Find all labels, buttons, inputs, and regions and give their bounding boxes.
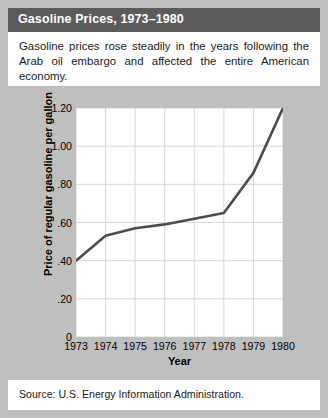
y-axis-tick: 1.00 — [38, 140, 72, 152]
x-axis-tick: 1980 — [263, 340, 303, 352]
source-text: Source: U.S. Energy Information Administ… — [19, 388, 244, 400]
chart-area: Price of regular gasoline per gallon 1.2… — [8, 86, 320, 374]
y-axis-tick-labels: 1.201.00.80.60.40.200 — [36, 108, 72, 337]
y-axis-tick: 1.20 — [38, 102, 72, 114]
description-text: Gasoline prices rose steadily in the yea… — [19, 39, 309, 85]
source-footer: Source: U.S. Energy Information Administ… — [8, 380, 320, 410]
y-axis-tick: .60 — [38, 217, 72, 229]
y-axis-tick: .80 — [38, 178, 72, 190]
plot-area — [76, 108, 283, 337]
y-axis-tick: .20 — [38, 293, 72, 305]
page-title: Gasoline Prices, 1973–1980 — [18, 12, 184, 26]
x-axis-tick-labels: 19731974197519761977197819791980 — [76, 340, 283, 354]
figure-panel: Gasoline Prices, 1973–1980 Gasoline pric… — [0, 0, 328, 418]
description-block: Gasoline prices rose steadily in the yea… — [8, 32, 320, 86]
x-axis-title: Year — [76, 355, 283, 367]
chart-title-bar: Gasoline Prices, 1973–1980 — [8, 8, 320, 32]
price-line-series — [76, 108, 283, 337]
y-axis-tick: .40 — [38, 255, 72, 267]
